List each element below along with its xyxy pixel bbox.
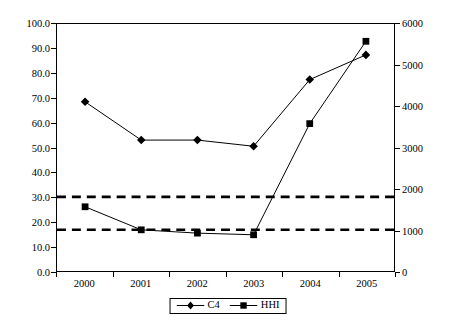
y-axis-right-tick-label: 0 [402, 267, 452, 278]
x-axis-tick-label-2004: 2004 [280, 278, 340, 289]
y-axis-left-tickmark [51, 23, 56, 24]
y-axis-left-tickmark [51, 73, 56, 74]
y-axis-left-tickmark [51, 197, 56, 198]
y-axis-left-tickmark [51, 247, 56, 248]
x-axis-tick-label-2005: 2005 [337, 278, 397, 289]
y-axis-left-tick-label: 30.0 [6, 192, 50, 203]
y-axis-right-tick-label: 2000 [402, 184, 452, 195]
y-axis-left-tick-label: 20.0 [6, 217, 50, 228]
y-axis-right-tickmark [395, 23, 400, 24]
y-axis-left-tick-label: 70.0 [6, 92, 50, 103]
x-axis-tick-label-2003: 2003 [224, 278, 284, 289]
legend-label-c4: C4 [208, 300, 220, 311]
y-axis-left-tickmark [51, 48, 56, 49]
x-axis-tickmark [56, 272, 57, 277]
x-axis-tickmark [395, 272, 396, 277]
x-axis-tick-label-2002: 2002 [167, 278, 227, 289]
legend-label-hhi: HHI [261, 300, 280, 311]
axis-labels-layer: 0.010.020.030.040.050.060.070.080.090.01… [0, 0, 456, 324]
y-axis-left-tick-label: 40.0 [6, 167, 50, 178]
y-axis-left-tick-label: 80.0 [6, 67, 50, 78]
y-axis-right-tick-label: 5000 [402, 59, 452, 70]
x-axis-tickmark [169, 272, 170, 277]
y-axis-left-tick-label: 0.0 [6, 267, 50, 278]
y-axis-left-tickmark [51, 123, 56, 124]
y-axis-left-tick-label: 90.0 [6, 42, 50, 53]
x-axis-tick-label-2000: 2000 [54, 278, 114, 289]
x-axis-tickmark [113, 272, 114, 277]
y-axis-right-tickmark [395, 148, 400, 149]
y-axis-right-tick-label: 1000 [402, 225, 452, 236]
legend-entry-c4: C4 [177, 300, 220, 311]
y-axis-left-tickmark [51, 222, 56, 223]
y-axis-right-tick-label: 4000 [402, 101, 452, 112]
y-axis-left-tickmark [51, 98, 56, 99]
y-axis-left-tick-label: 50.0 [6, 142, 50, 153]
y-axis-left-tick-label: 60.0 [6, 117, 50, 128]
y-axis-right-tick-label: 3000 [402, 142, 452, 153]
y-axis-left-tickmark [51, 172, 56, 173]
x-axis-tick-label-2001: 2001 [111, 278, 171, 289]
legend-marker-diamond-icon [177, 300, 205, 311]
y-axis-right-tickmark [395, 65, 400, 66]
chart-container: 0.010.020.030.040.050.060.070.080.090.01… [0, 0, 456, 324]
x-axis-tickmark [339, 272, 340, 277]
chart-legend: C4 HHI [170, 298, 287, 314]
legend-marker-square-icon [230, 300, 258, 311]
legend-entry-hhi: HHI [230, 300, 280, 311]
y-axis-left-tick-label: 10.0 [6, 242, 50, 253]
y-axis-right-tickmark [395, 231, 400, 232]
x-axis-tickmark [226, 272, 227, 277]
y-axis-right-tickmark [395, 189, 400, 190]
y-axis-right-tickmark [395, 106, 400, 107]
x-axis-tickmark [282, 272, 283, 277]
y-axis-right-tick-label: 6000 [402, 18, 452, 29]
y-axis-left-tick-label: 100.0 [6, 18, 50, 29]
y-axis-left-tickmark [51, 148, 56, 149]
